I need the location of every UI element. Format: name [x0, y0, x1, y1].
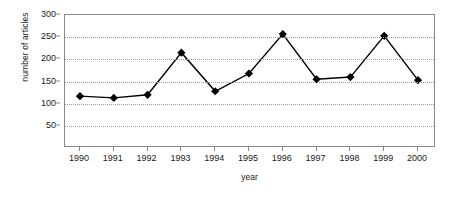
- x-tick-mark: [79, 147, 80, 151]
- data-point-marker: [110, 94, 118, 102]
- x-tick-label: 1999: [373, 153, 393, 163]
- gridline-250: [65, 37, 434, 38]
- x-tick-mark: [349, 147, 350, 151]
- x-tick-mark: [417, 147, 418, 151]
- line-chart-figure: number of articles 50100150200250300 199…: [0, 0, 466, 198]
- x-tick-label: 1992: [137, 153, 157, 163]
- gridline-150: [65, 82, 434, 83]
- x-tick-mark: [214, 147, 215, 151]
- y-tick-mark: [56, 102, 60, 103]
- series-line: [80, 34, 418, 98]
- x-tick-label: 1993: [170, 153, 190, 163]
- data-point-marker: [76, 92, 84, 100]
- x-tick-mark: [248, 147, 249, 151]
- y-tick-label: 100: [41, 98, 56, 108]
- x-tick-label: 1997: [306, 153, 326, 163]
- plot-area: [64, 14, 435, 147]
- y-tick-mark: [56, 14, 60, 15]
- x-axis-label: year: [64, 172, 435, 182]
- x-tick-mark: [113, 147, 114, 151]
- gridline-200: [65, 59, 434, 60]
- y-tick-mark: [56, 36, 60, 37]
- x-tick-mark: [282, 147, 283, 151]
- y-tick-label: 200: [41, 53, 56, 63]
- gridline-50: [65, 126, 434, 127]
- y-tick-label: 150: [41, 76, 56, 86]
- x-tick-label: 2000: [407, 153, 427, 163]
- x-tick-label: 1998: [339, 153, 359, 163]
- y-tick-mark: [56, 80, 60, 81]
- x-tick-mark: [147, 147, 148, 151]
- gridline-100: [65, 104, 434, 105]
- y-tick-label: 50: [46, 120, 56, 130]
- y-tick-label: 300: [41, 9, 56, 19]
- x-tick-label: 1995: [238, 153, 258, 163]
- x-tick-mark: [316, 147, 317, 151]
- x-tick-label: 1991: [103, 153, 123, 163]
- x-tick-mark: [180, 147, 181, 151]
- x-tick-label: 1994: [204, 153, 224, 163]
- y-tick-mark: [56, 58, 60, 59]
- y-tick-mark: [56, 124, 60, 125]
- x-tick-mark: [383, 147, 384, 151]
- x-tick-label: 1996: [272, 153, 292, 163]
- y-axis-ticks: 50100150200250300: [28, 0, 60, 198]
- x-tick-label: 1990: [69, 153, 89, 163]
- y-tick-label: 250: [41, 31, 56, 41]
